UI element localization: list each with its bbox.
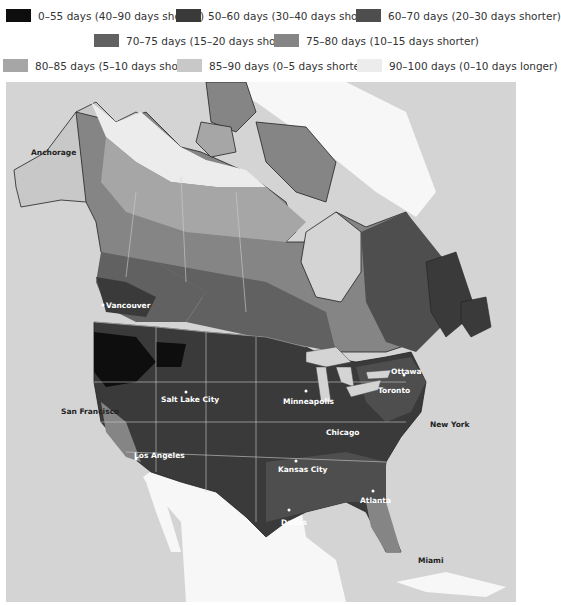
city-los-angeles: Los Angeles — [134, 451, 185, 460]
growing-season-map: Anchorage Vancouver San Francisco Salt L… — [6, 82, 516, 602]
legend-item: 80–85 days (5–10 days shorter) — [3, 59, 201, 72]
legend-swatch — [6, 9, 31, 22]
legend-item: 50–60 days (30–40 days shorter) — [176, 9, 381, 22]
legend-label: 60–70 days (20–30 days shorter) — [388, 10, 561, 22]
city-dallas: Dallas — [281, 518, 307, 527]
city-miami: Miami — [418, 556, 443, 565]
legend-label: 75–80 days (10–15 days shorter) — [306, 35, 479, 47]
legend-swatch — [176, 9, 201, 22]
city-chicago: Chicago — [326, 428, 359, 437]
city-atlanta: Atlanta — [360, 496, 391, 505]
idaho-region — [156, 342, 186, 367]
city-vancouver: Vancouver — [106, 301, 151, 310]
legend-label: 85–90 days (0–5 days shorter) — [209, 60, 368, 72]
legend-label: 70–75 days (15–20 days shorter) — [126, 35, 299, 47]
legend-label: 50–60 days (30–40 days shorter) — [208, 10, 381, 22]
city-san-francisco: San Francisco — [61, 407, 119, 416]
legend-swatch — [177, 59, 202, 72]
legend-swatch — [356, 9, 381, 22]
city-anchorage: Anchorage — [31, 148, 76, 157]
city-salt-lake-city: Salt Lake City — [161, 395, 219, 404]
legend-item: 0–55 days (40–90 days shorter) — [6, 9, 204, 22]
legend-swatch — [3, 59, 28, 72]
city-ottawa: Ottawa — [391, 367, 422, 376]
legend-swatch — [94, 34, 119, 47]
city-kansas-city: Kansas City — [278, 465, 327, 474]
legend-item: 75–80 days (10–15 days shorter) — [274, 34, 479, 47]
city-toronto: Toronto — [378, 386, 410, 395]
legend-item: 85–90 days (0–5 days shorter) — [177, 59, 368, 72]
legend-item: 60–70 days (20–30 days shorter) — [356, 9, 561, 22]
legend-label: 90–100 days (0–10 days longer) — [389, 60, 558, 72]
legend-swatch — [274, 34, 299, 47]
legend-swatch — [357, 59, 382, 72]
map-legend: 0–55 days (40–90 days shorter) 50–60 day… — [0, 0, 521, 80]
city-new-york: New York — [430, 420, 470, 429]
legend-item: 90–100 days (0–10 days longer) — [357, 59, 558, 72]
legend-item: 70–75 days (15–20 days shorter) — [94, 34, 299, 47]
city-minneapolis: Minneapolis — [283, 397, 335, 406]
